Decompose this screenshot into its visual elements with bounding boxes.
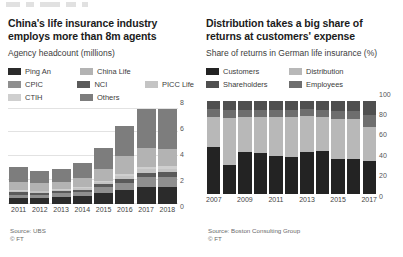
legend-item-distribution[interactable]: Distribution [289,67,344,76]
legend-label-nci: NCI [94,80,107,89]
bar-segment [316,110,329,117]
bar-segment [285,117,298,157]
x-axis-tick-label [222,196,238,203]
x-axis-tick-label: 2018 [157,206,178,213]
legend-item-cpic[interactable]: CPIC [8,80,77,89]
bar-segment [269,110,282,117]
x-axis-tick-label: 2011 [8,206,29,213]
x-axis-tick-label: 2014 [72,206,93,213]
bar-segment [115,183,134,191]
bar-column[interactable] [137,109,156,204]
bar-segment [254,110,267,117]
legend-item-ping-an[interactable]: Ping An [8,67,80,76]
legend-label-shareholders: Shareholders [223,80,268,89]
y-axis-tick-label: 6 [180,124,184,131]
bar-segment [363,115,376,127]
bar-column[interactable] [223,101,236,194]
bar-column[interactable] [94,109,113,204]
left-chart-title: China's life insurance industry employs … [8,17,194,42]
bar-segment [331,159,344,193]
right-chart-subtitle: Share of returns in German life insuranc… [206,48,397,59]
bar-segment [30,183,49,191]
bar-segment [158,149,177,166]
bar-segment [115,190,134,203]
legend-label-employees: Employees [306,80,343,89]
y-axis-tick-label: 4 [180,150,184,157]
bar-column[interactable] [300,101,313,194]
x-axis-tick-label: 2012 [29,206,50,213]
bar-column[interactable] [158,109,177,204]
bar-segment [300,101,313,109]
bar-column[interactable] [331,101,344,194]
bar-segment [207,147,220,194]
bar-segment [285,110,298,117]
bar-segment [331,119,344,159]
bar-segment [238,117,251,151]
legend-swatch-cpic [8,81,21,88]
bar-segment [158,187,177,204]
bar-segment [137,148,156,167]
bar-column[interactable] [269,101,282,194]
y-axis-tick-label: 80 [379,110,387,117]
bar-column[interactable] [73,109,92,204]
bar-column[interactable] [285,101,298,194]
legend-item-employees[interactable]: Employees [289,80,343,89]
bar-column[interactable] [347,101,360,194]
legend-item-nci[interactable]: NCI [77,80,144,89]
legend-swatch-employees [289,81,302,88]
right-chart-source: Source: Boston Consulting Group [208,227,300,235]
bar-column[interactable] [30,109,49,204]
bar-segment [73,163,92,178]
bar-column[interactable] [316,101,329,194]
bar-segment [158,177,177,187]
bar-segment [52,197,71,204]
bar-segment [316,101,329,110]
legend-item-shareholders[interactable]: Shareholders [206,80,289,89]
y-axis-tick-label: 100 [379,90,391,97]
bar-segment [269,117,282,156]
legend-item-ctih[interactable]: CTIH [8,93,80,102]
bar-column[interactable] [115,109,134,204]
legend-label-others: Others [97,93,120,102]
legend-swatch-ping-an [8,68,21,75]
bar-segment [238,152,251,194]
bar-segment [238,101,251,110]
left-chart-plot [8,109,178,204]
legend-item-china-life[interactable]: China Life [80,67,150,76]
bar-segment [137,177,156,187]
bar-column[interactable] [207,101,220,194]
left-chart-legend: Ping An China Life CPIC NCI PI [8,66,194,103]
legend-item-picc-life[interactable]: PICC Life [145,80,194,89]
y-axis-tick-label: 0 [379,192,383,199]
bar-segment [115,156,134,174]
bar-segment [137,187,156,204]
bar-segment [316,151,329,194]
bar-column[interactable] [363,101,376,194]
bar-segment [207,101,220,109]
legend-item-others[interactable]: Others [80,93,150,102]
bar-segment [9,198,28,204]
legend-item-customers[interactable]: Customers [206,67,289,76]
x-axis-tick-label: 2013 [51,206,72,213]
browser-toolbar-artifact [0,0,403,11]
legend-swatch-china-life [80,68,93,75]
bar-segment [94,169,113,181]
bar-segment [285,157,298,193]
bar-segment [316,117,329,150]
bar-segment [347,101,360,111]
bar-column[interactable] [9,109,28,204]
legend-label-china-life: China Life [97,67,131,76]
bar-column[interactable] [52,109,71,204]
bar-column[interactable] [254,101,267,194]
x-axis-tick-label: 2009 [237,196,253,203]
bar-segment [269,101,282,110]
bar-segment [300,116,313,151]
bar-segment [30,171,49,182]
bar-segment [223,101,236,110]
bar-segment [285,101,298,110]
bar-column[interactable] [238,101,251,194]
x-axis-tick-label: 2017 [136,206,157,213]
bar-segment [363,127,376,160]
bar-segment [52,182,71,190]
bar-segment [94,193,113,203]
